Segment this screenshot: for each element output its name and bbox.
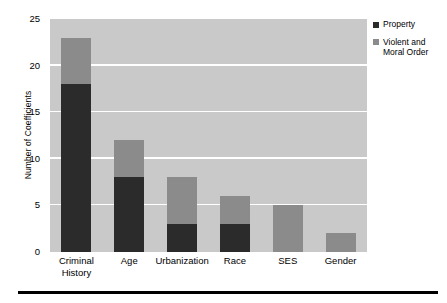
bar-chart-figure: Number of Coefficients 0510152025 Crimin… (0, 0, 447, 303)
bar-segment[interactable] (114, 140, 144, 177)
bar-segment[interactable] (61, 84, 91, 252)
bar-group[interactable] (61, 38, 91, 252)
bar-segment[interactable] (273, 205, 303, 252)
y-axis-tick-labels: 0510152025 (14, 0, 40, 303)
legend-swatch-icon (373, 22, 379, 28)
chart-legend: PropertyViolent and Moral Order (373, 19, 447, 65)
legend-entry[interactable]: Property (373, 19, 447, 30)
x-tick-label: Gender (304, 255, 377, 267)
bar-group[interactable] (326, 233, 356, 252)
legend-swatch-icon (373, 39, 379, 45)
bar-segment[interactable] (61, 38, 91, 85)
bar-group[interactable] (220, 196, 250, 252)
legend-entry[interactable]: Violent and Moral Order (373, 37, 447, 58)
bar-segment[interactable] (220, 196, 250, 224)
y-tick-label: 5 (14, 200, 40, 210)
bar-segment[interactable] (326, 233, 356, 252)
bar-group[interactable] (273, 205, 303, 252)
bars-layer (50, 19, 367, 252)
y-tick-label: 0 (14, 247, 40, 257)
bar-segment[interactable] (114, 177, 144, 252)
bar-group[interactable] (167, 177, 197, 252)
y-tick-label: 10 (14, 154, 40, 164)
y-tick-label: 25 (14, 14, 40, 24)
plot-area (50, 19, 367, 252)
legend-label: Violent and Moral Order (383, 37, 428, 58)
bar-segment[interactable] (220, 224, 250, 252)
bar-segment[interactable] (167, 224, 197, 252)
bar-segment[interactable] (167, 177, 197, 224)
x-axis-tick-labels: Criminal HistoryAgeUrbanizationRaceSESGe… (50, 255, 367, 295)
legend-label: Property (383, 19, 415, 30)
y-tick-label: 20 (14, 61, 40, 71)
bottom-rule-divider (18, 291, 438, 294)
bar-group[interactable] (114, 140, 144, 252)
y-tick-label: 15 (14, 107, 40, 117)
